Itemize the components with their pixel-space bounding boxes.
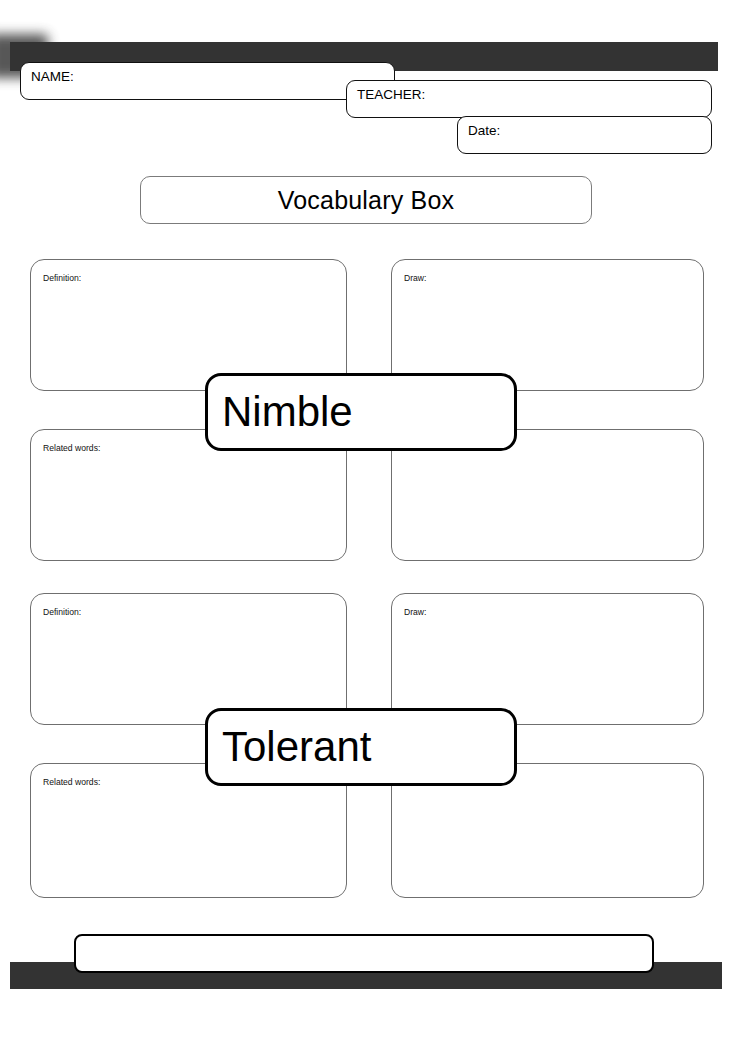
card-2-draw-box[interactable]: Draw: xyxy=(391,593,704,725)
card-1-definition-label: Definition: xyxy=(43,274,81,283)
card-2-draw-label: Draw: xyxy=(404,608,426,617)
name-field-label: NAME: xyxy=(31,70,74,84)
footer-note-box[interactable] xyxy=(74,934,654,973)
page-title-label: Vocabulary Box xyxy=(278,186,455,215)
date-field-label: Date: xyxy=(468,124,500,138)
page-title: Vocabulary Box xyxy=(140,176,592,224)
worksheet-page: NAME: TEACHER: Date: Vocabulary Box Defi… xyxy=(0,0,754,1041)
card-2-word-box: Tolerant xyxy=(205,708,517,786)
card-1-definition-box[interactable]: Definition: xyxy=(30,259,347,391)
card-2-word: Tolerant xyxy=(208,726,371,768)
name-field[interactable]: NAME: xyxy=(20,62,395,100)
card-1-draw-box[interactable]: Draw: xyxy=(391,259,704,391)
card-1-related-words-label: Related words: xyxy=(43,444,100,453)
card-1-word: Nimble xyxy=(208,391,353,433)
card-1-word-box: Nimble xyxy=(205,373,517,451)
card-2-definition-label: Definition: xyxy=(43,608,81,617)
card-2-related-words-label: Related words: xyxy=(43,778,100,787)
card-2-definition-box[interactable]: Definition: xyxy=(30,593,347,725)
teacher-field-label: TEACHER: xyxy=(357,88,425,102)
teacher-field[interactable]: TEACHER: xyxy=(346,80,712,118)
date-field[interactable]: Date: xyxy=(457,116,712,154)
card-1-draw-label: Draw: xyxy=(404,274,426,283)
